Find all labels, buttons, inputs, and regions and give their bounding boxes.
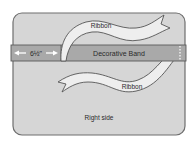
- ribbon-band-diagram: 6½" Decorative Band Ribbon Ribbon Right …: [0, 0, 193, 145]
- ribbon-upper-label: Ribbon: [91, 22, 112, 29]
- ribbon-lower-label: Ribbon: [122, 83, 143, 90]
- band-label: Decorative Band: [93, 50, 145, 57]
- side-label: Right side: [85, 114, 114, 122]
- measurement-label: 6½": [30, 50, 43, 57]
